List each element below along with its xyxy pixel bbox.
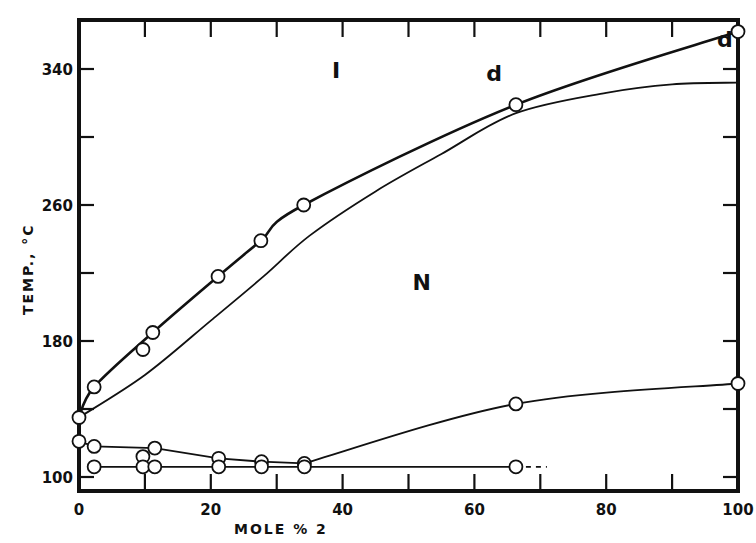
data-point-marker <box>212 460 225 473</box>
axis-ticks <box>79 20 738 491</box>
y-tick-label: 180 <box>42 333 73 351</box>
melting-curve-left <box>79 441 304 463</box>
data-point-marker <box>254 234 267 247</box>
x-tick-label: 100 <box>722 501 753 519</box>
phase-diagram-chart: 020406080100100180260340 INdd MOLE % 2 T… <box>0 0 756 543</box>
data-point-marker <box>297 199 310 212</box>
data-point-marker <box>73 435 86 448</box>
y-tick-label: 100 <box>42 469 73 487</box>
data-point-marker <box>212 270 225 283</box>
data-point-marker <box>255 460 268 473</box>
data-point-marker <box>148 442 161 455</box>
melting-curve-right <box>304 384 738 464</box>
data-curves <box>79 32 738 467</box>
y-axis-title: TEMP., °C <box>20 223 36 315</box>
plot-frame <box>79 20 738 491</box>
data-point-marker <box>88 380 101 393</box>
data-point-marker <box>509 98 522 111</box>
clearing-upper-curve <box>79 32 738 418</box>
data-point-marker <box>136 343 149 356</box>
x-axis-title: MOLE % 2 <box>234 521 328 537</box>
x-tick-label: 80 <box>596 501 617 519</box>
x-tick-label: 40 <box>332 501 353 519</box>
data-point-marker <box>73 411 86 424</box>
y-tick-label: 260 <box>42 197 73 215</box>
decomposition-label: d <box>717 27 733 52</box>
plot-border <box>79 20 738 491</box>
data-point-marker <box>732 377 745 390</box>
data-point-marker <box>146 326 159 339</box>
data-markers <box>73 25 745 473</box>
region-label-i: I <box>332 58 340 83</box>
data-point-marker <box>509 460 522 473</box>
data-point-marker <box>509 397 522 410</box>
x-tick-label: 60 <box>464 501 485 519</box>
data-point-marker <box>148 460 161 473</box>
data-point-marker <box>298 460 311 473</box>
x-tick-label: 20 <box>200 501 221 519</box>
clearing-lower-curve <box>79 83 738 418</box>
data-point-marker <box>88 460 101 473</box>
data-point-marker <box>88 440 101 453</box>
region-label-n: N <box>412 270 430 295</box>
x-tick-label: 0 <box>74 501 84 519</box>
y-tick-label: 340 <box>42 61 73 79</box>
decomposition-label: d <box>486 61 502 86</box>
data-point-marker <box>732 25 745 38</box>
